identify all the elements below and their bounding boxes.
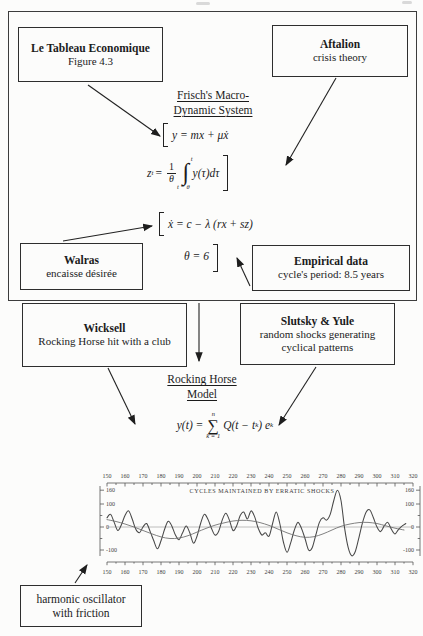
- svg-text:270: 270: [319, 473, 328, 479]
- svg-text:290: 290: [355, 473, 364, 479]
- svg-text:250: 250: [283, 473, 292, 479]
- rocking-horse-heading: Rocking Horse Model: [147, 372, 257, 402]
- consumption-equation: y = mx + μẋ: [163, 124, 228, 146]
- summation-body2-sub: k: [270, 421, 273, 429]
- aftalion-box: Aftalion crisis theory: [272, 25, 408, 77]
- arrow-wicksell-to-model-eq: [108, 368, 135, 424]
- svg-text:180: 180: [157, 569, 166, 575]
- figure-page: Le Tableau Economique Figure 4.3 Aftalio…: [0, 0, 423, 636]
- svg-text:100: 100: [405, 501, 414, 507]
- svg-text:240: 240: [265, 473, 274, 479]
- fraction-numerator: 1: [167, 162, 176, 174]
- svg-text:310: 310: [391, 569, 400, 575]
- svg-text:240: 240: [265, 569, 274, 575]
- fraction: 1 θ: [167, 162, 176, 184]
- empirical-title: Empirical data: [294, 254, 368, 268]
- aftalion-title: Aftalion: [320, 37, 360, 51]
- svg-text:150: 150: [103, 569, 112, 575]
- shock-summation-equation: y(t) = n ∑ k = 1 Q(t − tk) ek: [140, 411, 310, 439]
- scan-artifact: [196, 2, 210, 5]
- summation-body2: ) e: [258, 419, 270, 431]
- fraction-denominator: θ: [169, 174, 174, 185]
- svg-text:170: 170: [139, 473, 148, 479]
- svg-text:200: 200: [193, 473, 202, 479]
- svg-text:320: 320: [409, 473, 418, 479]
- svg-text:280: 280: [337, 473, 346, 479]
- svg-text:-100: -100: [403, 547, 414, 553]
- slutsky-subtitle: random shocks generating cyclical patter…: [251, 328, 384, 355]
- integrand-text: y(τ)dτ: [193, 167, 220, 179]
- right-bracket-icon: [223, 155, 228, 191]
- frisch-heading-line1: Frisch's Macro-: [140, 88, 286, 103]
- svg-text:270: 270: [319, 569, 328, 575]
- frisch-heading-line2: Dynamic System: [140, 103, 286, 118]
- theta-equation: θ = 6: [184, 241, 218, 271]
- summation-lhs: y(t) =: [177, 419, 204, 431]
- wicksell-box: Wicksell Rocking Horse hit with a club: [22, 303, 187, 367]
- svg-text:170: 170: [139, 569, 148, 575]
- integral-lower-limit: t − θ: [177, 184, 190, 191]
- svg-text:160: 160: [106, 487, 115, 493]
- tableau-title: Le Tableau Economique: [31, 41, 150, 55]
- cycles-chart: 1501501601601701701801801901902002002102…: [90, 462, 423, 580]
- svg-text:250: 250: [283, 569, 292, 575]
- summation-body: Q(t − t: [223, 419, 255, 431]
- harmonic-label-line2: with friction: [52, 606, 109, 620]
- svg-text:150: 150: [103, 473, 112, 479]
- integral-icon: ∫: [182, 162, 189, 184]
- chart-series-0: [107, 490, 406, 556]
- rocking-heading-line2: Model: [147, 387, 257, 402]
- empirical-subtitle: cycle's period: 8.5 years: [278, 268, 384, 281]
- frisch-heading: Frisch's Macro- Dynamic System: [140, 88, 286, 118]
- svg-text:260: 260: [301, 473, 310, 479]
- svg-text:220: 220: [229, 569, 238, 575]
- aftalion-subtitle: crisis theory: [313, 51, 367, 64]
- svg-text:200: 200: [193, 569, 202, 575]
- svg-text:230: 230: [247, 569, 256, 575]
- svg-text:-100: -100: [106, 547, 117, 553]
- slutsky-box: Slutsky & Yule random shocks generating …: [240, 303, 395, 365]
- production-equation: ẋ = c − λ (rx + sz): [159, 213, 253, 235]
- harmonic-label-line1: harmonic oscillator: [36, 592, 125, 606]
- svg-text:230: 230: [247, 473, 256, 479]
- sigma-icon: ∑: [208, 418, 219, 433]
- tableau-box: Le Tableau Economique Figure 4.3: [18, 27, 163, 82]
- svg-text:300: 300: [373, 473, 382, 479]
- walras-subtitle: encaisse désirée: [46, 267, 117, 280]
- svg-text:220: 220: [229, 473, 238, 479]
- integral-upper-limit: t: [191, 156, 193, 163]
- svg-text:160: 160: [121, 473, 130, 479]
- svg-text:180: 180: [157, 473, 166, 479]
- integral: t ∫ t − θ: [182, 156, 190, 191]
- svg-text:290: 290: [355, 569, 364, 575]
- svg-text:190: 190: [175, 569, 184, 575]
- walras-title: Walras: [64, 253, 99, 267]
- svg-text:160: 160: [405, 487, 414, 493]
- consumption-equation-text: y = mx + μẋ: [172, 129, 228, 141]
- svg-text:260: 260: [301, 569, 310, 575]
- svg-text:210: 210: [211, 569, 220, 575]
- theta-equation-text: θ = 6: [184, 250, 209, 262]
- wicksell-subtitle: Rocking Horse hit with a club: [38, 335, 170, 348]
- left-bracket-icon: [159, 212, 164, 236]
- sum-lower-limit: k = 1: [206, 433, 220, 440]
- right-bracket-icon: [213, 244, 218, 272]
- svg-text:300: 300: [373, 569, 382, 575]
- left-bracket-icon: [163, 123, 168, 147]
- scan-artifact: [402, 1, 412, 4]
- svg-text:160: 160: [121, 569, 130, 575]
- svg-text:310: 310: [391, 473, 400, 479]
- empirical-box: Empirical data cycle's period: 8.5 years: [252, 245, 410, 291]
- production-equation-text: ẋ = c − λ (rx + sz): [168, 218, 253, 230]
- slutsky-title: Slutsky & Yule: [281, 314, 354, 328]
- arrow-harmonic-to-chart: [75, 565, 87, 583]
- harmonic-oscillator-box: harmonic oscillator with friction: [20, 585, 142, 627]
- walras-box: Walras encaisse désirée: [20, 243, 143, 290]
- equals-sign: =: [153, 167, 164, 179]
- wicksell-title: Wicksell: [84, 321, 126, 335]
- svg-text:CYCLES MAINTAINED BY ERRATIC S: CYCLES MAINTAINED BY ERRATIC SHOCKS: [190, 488, 335, 494]
- svg-text:210: 210: [211, 473, 220, 479]
- svg-text:320: 320: [409, 569, 418, 575]
- rocking-heading-line1: Rocking Horse: [147, 372, 257, 387]
- tableau-subtitle: Figure 4.3: [68, 55, 113, 68]
